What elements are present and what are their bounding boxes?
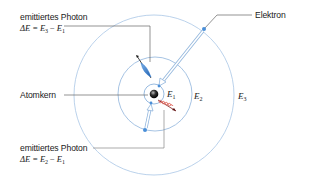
photon-top-formula: ΔE = E3 − E1 — [20, 23, 87, 33]
formula-prefix: ΔE = — [20, 154, 40, 164]
photon-bottom-title: emittiertes Photon — [20, 143, 87, 153]
photon-bottom-formula: ΔE = E2 − E1 — [20, 154, 87, 164]
electron-label: Elektron — [255, 10, 286, 20]
nucleus-icon — [150, 90, 159, 99]
leader-line-electron — [204, 15, 252, 29]
energy-sub: 1 — [173, 94, 176, 100]
nucleus-label: Atomkern — [20, 90, 56, 100]
energy-level-e3: E3 — [238, 91, 247, 101]
leader-line-photon-bottom — [93, 110, 164, 148]
transition-arrow-e2-e1 — [146, 104, 153, 128]
formula-prefix: ΔE = — [20, 23, 40, 33]
formula-sub-b: 1 — [62, 159, 65, 165]
energy-sub: 2 — [200, 96, 203, 102]
energy-sub: 3 — [244, 96, 247, 102]
formula-sub-b: 1 — [62, 28, 65, 34]
electron-middle-icon — [143, 128, 147, 132]
photon-top-title: emittiertes Photon — [20, 12, 87, 22]
photon-bottom-label: emittiertes Photon ΔE = E2 − E1 — [20, 143, 87, 164]
electron-inner-bottom-icon — [150, 102, 153, 105]
electron-outer-icon — [202, 27, 206, 31]
energy-level-e1: E1 — [167, 89, 176, 99]
formula-minus: − — [48, 23, 57, 33]
energy-level-e2: E2 — [194, 91, 203, 101]
photon-red-icon — [158, 100, 176, 111]
photon-top-label: emittiertes Photon ΔE = E3 − E1 — [20, 12, 87, 33]
formula-minus: − — [48, 154, 57, 164]
electron-inner-top-icon — [158, 85, 161, 88]
